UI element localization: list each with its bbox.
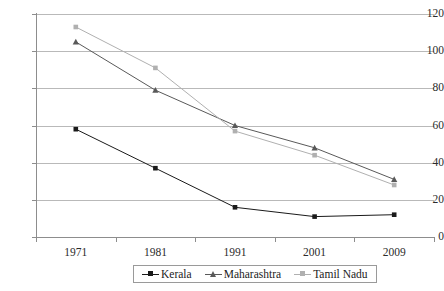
- x-tick-label: 1981: [125, 246, 185, 258]
- grid-line: [36, 51, 434, 52]
- data-point-marker: [153, 166, 158, 171]
- y-tick-label: 40: [412, 157, 444, 169]
- data-point-marker: [74, 25, 79, 30]
- x-tick-mark: [275, 237, 276, 242]
- data-point-marker: [312, 145, 318, 151]
- data-point-marker: [392, 183, 397, 188]
- x-tick-mark: [354, 237, 355, 242]
- x-tick-mark: [116, 237, 117, 242]
- legend-marker-square-icon: [142, 269, 159, 279]
- x-tick-label: 2009: [364, 246, 424, 258]
- grid-line: [36, 14, 434, 15]
- legend: Kerala Maharashtra Tamil Nadu: [133, 265, 377, 283]
- x-tick-label: 1971: [46, 246, 106, 258]
- grid-line: [36, 88, 434, 89]
- series-line: [76, 42, 394, 180]
- legend-marker-square-icon: [294, 269, 311, 279]
- legend-label: Kerala: [161, 268, 192, 280]
- x-tick-mark: [195, 237, 196, 242]
- x-tick-mark: [36, 237, 37, 242]
- data-point-marker: [233, 129, 238, 134]
- y-tick-label: 80: [412, 82, 444, 94]
- x-tick-mark: [434, 237, 435, 242]
- legend-label: Tamil Nadu: [313, 268, 367, 280]
- legend-item-maharashtra: Maharashtra: [205, 268, 281, 280]
- series-kerala: [74, 127, 397, 219]
- legend-item-kerala: Kerala: [142, 268, 192, 280]
- grid-line: [36, 163, 434, 164]
- x-tick-label: 1991: [205, 246, 265, 258]
- y-tick-label: 120: [412, 8, 444, 20]
- grid-line: [36, 200, 434, 201]
- data-point-marker: [74, 127, 79, 132]
- line-chart: 020406080100120 19711981199120012009 Ker…: [0, 0, 444, 291]
- y-tick-label: 60: [412, 120, 444, 132]
- y-tick-label: 20: [412, 194, 444, 206]
- data-point-marker: [312, 153, 317, 158]
- data-point-marker: [233, 205, 238, 210]
- x-axis-line: [36, 237, 434, 238]
- y-tick-label: 100: [412, 45, 444, 57]
- series-line: [76, 129, 394, 216]
- legend-label: Maharashtra: [224, 268, 281, 280]
- data-point-marker: [392, 212, 397, 217]
- data-point-marker: [73, 39, 79, 45]
- y-axis-line: [36, 13, 37, 238]
- x-tick-label: 2001: [285, 246, 345, 258]
- legend-item-tamil-nadu: Tamil Nadu: [294, 268, 367, 280]
- series-maharashtra: [73, 39, 398, 182]
- legend-marker-triangle-icon: [205, 269, 222, 279]
- data-point-marker: [153, 66, 158, 71]
- data-point-marker: [391, 176, 397, 182]
- grid-line: [36, 126, 434, 127]
- data-point-marker: [312, 214, 317, 219]
